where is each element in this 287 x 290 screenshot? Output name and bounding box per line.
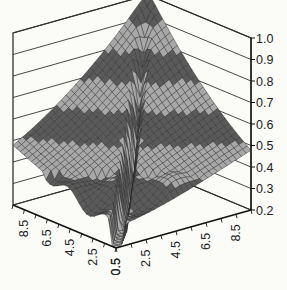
y-tick-label: 6.5 xyxy=(199,233,213,250)
y-tick-label: 2.5 xyxy=(139,250,153,267)
x-tick xyxy=(58,224,59,228)
z-tick-label: 0.7 xyxy=(256,96,273,110)
y-tick-label: 0.5 xyxy=(109,258,123,275)
x-tick xyxy=(23,210,24,214)
x-tick-label: 6.5 xyxy=(40,229,54,246)
z-tick-label: 1.0 xyxy=(256,32,273,46)
x-tick xyxy=(35,215,36,219)
y-tick xyxy=(251,210,252,214)
z-tick-label: 0.4 xyxy=(256,161,273,175)
y-tick xyxy=(221,218,222,222)
y-tick xyxy=(116,248,117,252)
x-tick xyxy=(46,219,47,223)
y-tick xyxy=(236,214,237,218)
x-tick xyxy=(81,234,82,238)
y-tick-label: 8.5 xyxy=(229,224,243,241)
z-tick-label: 0.3 xyxy=(256,182,273,196)
y-tick-label: 4.5 xyxy=(169,241,183,258)
x-tick xyxy=(12,205,13,209)
z-tick-label: 0.6 xyxy=(256,118,273,132)
x-tick xyxy=(104,243,105,247)
surface-chart: 1.00.90.80.70.60.50.40.30.20.52.54.56.58… xyxy=(0,0,287,290)
x-tick-label: 2.5 xyxy=(86,248,100,265)
z-tick-label: 0.2 xyxy=(256,204,273,218)
y-tick xyxy=(131,244,132,248)
y-tick xyxy=(146,240,147,244)
x-tick-label: 4.5 xyxy=(63,239,77,256)
z-tick-label: 0.5 xyxy=(256,139,273,153)
x-tick-label: 8.5 xyxy=(17,220,31,237)
y-tick xyxy=(176,231,177,235)
x-tick xyxy=(92,238,93,242)
y-tick xyxy=(206,223,207,227)
z-tick-label: 0.9 xyxy=(256,53,273,67)
x-tick xyxy=(69,229,70,233)
z-tick-label: 0.8 xyxy=(256,75,273,89)
y-tick xyxy=(161,235,162,239)
y-tick xyxy=(191,227,192,231)
